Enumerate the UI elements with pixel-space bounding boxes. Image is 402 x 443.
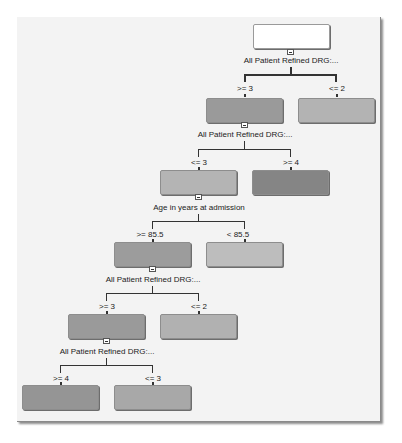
branch-condition: >= 3 <box>237 84 253 93</box>
split-label: All Patient Refined DRG:... <box>198 130 293 139</box>
tree-node-root[interactable] <box>253 24 330 49</box>
collapse-icon[interactable] <box>149 266 156 272</box>
tree-node[interactable] <box>252 170 329 195</box>
branch-condition: <= 2 <box>329 84 345 93</box>
branch-condition: >= 85.5 <box>136 230 163 239</box>
branch-condition: < 85.5 <box>227 230 249 239</box>
connector <box>336 94 338 97</box>
collapse-icon[interactable] <box>195 194 202 200</box>
tree-node[interactable] <box>206 242 283 267</box>
tree-node[interactable] <box>68 314 145 339</box>
tree-node[interactable] <box>114 385 191 410</box>
branch-connector <box>60 365 153 373</box>
split-label: Age in years at admission <box>153 203 245 212</box>
tree-node[interactable] <box>114 242 191 267</box>
branch-connector <box>106 293 199 301</box>
collapse-icon[interactable] <box>287 49 294 55</box>
tree-node[interactable] <box>22 385 99 410</box>
split-label: All Patient Refined DRG:... <box>60 347 155 356</box>
collapse-icon[interactable] <box>103 338 110 344</box>
branch-connector <box>244 74 337 82</box>
tree-node[interactable] <box>160 170 237 195</box>
branch-condition: >= 4 <box>283 158 299 167</box>
branch-connector <box>198 149 291 157</box>
connector <box>244 94 246 97</box>
split-label: All Patient Refined DRG:... <box>106 275 201 284</box>
branch-condition: <= 2 <box>191 302 207 311</box>
tree-node[interactable] <box>160 314 237 339</box>
tree-node[interactable] <box>298 98 375 123</box>
split-label: All Patient Refined DRG:... <box>244 56 339 65</box>
collapse-icon[interactable] <box>241 122 248 128</box>
branch-connector <box>152 221 245 229</box>
branch-condition: <= 3 <box>191 158 207 167</box>
branch-condition: >= 3 <box>99 302 115 311</box>
tree-node[interactable] <box>206 98 283 123</box>
